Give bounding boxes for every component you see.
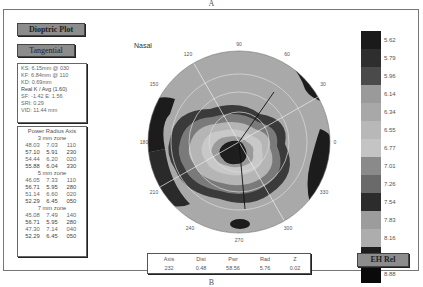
- scale-swatch: [361, 49, 381, 67]
- stat-value-dist: 0.48: [186, 265, 216, 271]
- svg-text:30: 30: [320, 81, 326, 87]
- scale-swatch: [361, 67, 381, 85]
- zone-label: 3 mm zone: [21, 135, 83, 142]
- zone-row: 48.037.03110: [21, 142, 83, 149]
- scale-value: 6.77: [384, 139, 396, 157]
- scale-value: 5.62: [384, 31, 396, 49]
- zone-row: 54.446.20020: [21, 156, 83, 163]
- vid-value: VID: 11.44 mm: [21, 107, 83, 114]
- stat-value-pwr: 58.56: [218, 265, 248, 271]
- scale-swatch: [361, 229, 381, 247]
- scale-swatch: [361, 175, 381, 193]
- zone-row: 57.105.91230: [21, 149, 83, 156]
- scale-value: 8.16: [384, 229, 396, 247]
- scale-swatch: [361, 157, 381, 175]
- svg-text:120: 120: [184, 51, 193, 57]
- corneal-topography-map[interactable]: 90 60 30 0 330 300 270 240 210 180 150 1…: [140, 34, 340, 244]
- scale-swatch: [361, 31, 381, 49]
- scale-swatch: [361, 193, 381, 211]
- power-radius-axis-panel: Power Radius Axis 3 mm zone 48.037.03110…: [17, 126, 87, 257]
- cursor-stats-panel: Axis Dist Pwr Rad Z 232 0.48 58.56 5.76 …: [147, 253, 311, 274]
- stat-header-pwr: Pwr: [218, 256, 248, 262]
- eh-rel-button[interactable]: EH Rel: [357, 253, 409, 267]
- scale-value: 6.14: [384, 85, 396, 103]
- zone-row: 52.296.45050: [21, 198, 83, 205]
- tangential-button[interactable]: Tangential: [17, 44, 75, 57]
- stat-value-axis: 232: [154, 265, 184, 271]
- sf-e-value: SF: -1.42 E: 1.56: [21, 93, 83, 100]
- stat-header-dist: Dist: [186, 256, 216, 262]
- scale-swatch: [361, 211, 381, 229]
- power-radius-axis-title: Power Radius Axis: [21, 128, 83, 135]
- kf-value: KF: 6.84mm @ 110: [21, 72, 83, 79]
- zone-row: 45.087.49140: [21, 212, 83, 219]
- svg-text:180: 180: [140, 139, 148, 145]
- scale-swatch: [361, 103, 381, 121]
- svg-text:270: 270: [235, 237, 244, 243]
- scale-value: 6.34: [384, 103, 396, 121]
- scale-value: 7.01: [384, 157, 396, 175]
- color-scale: [361, 31, 381, 283]
- svg-text:0: 0: [334, 139, 337, 145]
- scale-value: 5.79: [384, 49, 396, 67]
- svg-text:210: 210: [150, 189, 159, 195]
- stat-header-z: Z: [280, 256, 310, 262]
- scale-value: 7.26: [384, 175, 396, 193]
- zone-7mm: 7 mm zone 45.087.49140 56.715.95280 47.3…: [21, 205, 83, 240]
- svg-text:330: 330: [320, 189, 329, 195]
- scale-value: 6.55: [384, 121, 396, 139]
- sri-value: SRI: 0.29: [21, 100, 83, 107]
- zone-row: 56.715.95280: [21, 219, 83, 226]
- panel-label-b: B: [0, 278, 423, 287]
- scale-swatch: [361, 139, 381, 157]
- panel-label-a: A: [0, 0, 423, 8]
- zone-3mm: 3 mm zone 48.037.03110 57.105.91230 54.4…: [21, 135, 83, 170]
- stat-value-rad: 5.76: [250, 265, 280, 271]
- zone-row: 46.057.33110: [21, 177, 83, 184]
- svg-text:150: 150: [150, 81, 159, 87]
- zone-row: 55.886.04330: [21, 163, 83, 170]
- kd-value: KD: 0.69mm: [21, 79, 83, 86]
- zone-label: 5 mm zone: [21, 170, 83, 177]
- svg-text:240: 240: [186, 225, 195, 231]
- real-k-value: Real K / Avg (1.60): [21, 86, 83, 93]
- keratometry-panel: KS: 6.15mm @ 030 KF: 6.84mm @ 110 KD: 0.…: [17, 63, 87, 123]
- scale-value: 7.83: [384, 211, 396, 229]
- stat-header-axis: Axis: [154, 256, 184, 262]
- scale-swatch: [361, 121, 381, 139]
- stat-header-rad: Rad: [250, 256, 280, 262]
- ks-value: KS: 6.15mm @ 030: [21, 65, 83, 72]
- zone-5mm: 5 mm zone 46.057.33110 56.715.95280 51.1…: [21, 170, 83, 205]
- scale-value: 5.96: [384, 67, 396, 85]
- svg-text:90: 90: [236, 41, 242, 47]
- dioptric-plot-button[interactable]: Dioptric Plot: [17, 23, 85, 36]
- scale-swatch: [361, 85, 381, 103]
- zone-row: 47.307.14040: [21, 226, 83, 233]
- color-scale-labels: 5.62 5.79 5.96 6.14 6.34 6.55 6.77 7.01 …: [384, 31, 396, 283]
- zone-row: 51.146.60020: [21, 191, 83, 198]
- svg-text:60: 60: [284, 51, 290, 57]
- svg-text:300: 300: [284, 225, 293, 231]
- scale-value: 7.54: [384, 193, 396, 211]
- zone-row: 56.715.95280: [21, 184, 83, 191]
- stat-value-z: 0.02: [280, 265, 310, 271]
- zone-row: 52.296.45050: [21, 233, 83, 240]
- zone-label: 7 mm zone: [21, 205, 83, 212]
